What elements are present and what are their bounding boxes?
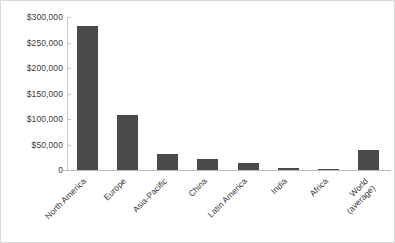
x-axis-category-label: Latin America bbox=[206, 176, 249, 219]
x-axis-category-label-line: Asia-Pacific bbox=[130, 176, 168, 214]
x-axis-category-label-line: North America bbox=[43, 176, 88, 221]
x-axis-category-label-line: Europe bbox=[102, 176, 128, 202]
x-axis-category-labels: North AmericaEuropeAsia-PacificChinaLati… bbox=[1, 170, 395, 243]
bar-chart-figure: $300,000$250,000$200,000$150,000$100,000… bbox=[0, 0, 395, 243]
y-axis-tick-label: $200,000 bbox=[7, 63, 63, 73]
y-axis-tick-label: $50,000 bbox=[7, 140, 63, 150]
x-axis-category-label-line: India bbox=[269, 176, 289, 196]
bar bbox=[358, 150, 379, 170]
bar bbox=[197, 159, 218, 170]
y-axis-tick-label: $100,000 bbox=[7, 114, 63, 124]
x-axis-category-label: World(average) bbox=[337, 176, 377, 216]
bar bbox=[238, 163, 259, 170]
y-axis-tick-label: $250,000 bbox=[7, 38, 63, 48]
bar bbox=[77, 26, 98, 170]
plot-area bbox=[67, 17, 389, 170]
x-axis-category-label: China bbox=[186, 176, 209, 199]
x-axis-category-label-line: Africa bbox=[307, 176, 329, 198]
x-axis-category-label-line: China bbox=[186, 176, 209, 199]
x-axis-category-label: India bbox=[269, 176, 289, 196]
x-axis-category-label: Africa bbox=[307, 176, 329, 198]
x-axis-category-label: Asia-Pacific bbox=[130, 176, 168, 214]
bar bbox=[117, 115, 138, 170]
y-axis-tick-label: $300,000 bbox=[7, 12, 63, 22]
x-axis-category-label-line: Latin America bbox=[206, 176, 249, 219]
x-axis-category-label: North America bbox=[43, 176, 88, 221]
y-axis-tick-label: $150,000 bbox=[7, 89, 63, 99]
x-axis-category-label: Europe bbox=[102, 176, 128, 202]
bar bbox=[157, 154, 178, 170]
